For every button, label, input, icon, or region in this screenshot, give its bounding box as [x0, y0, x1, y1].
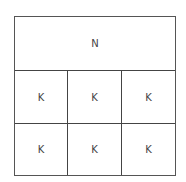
cell-r2-c1: K: [15, 124, 68, 175]
cell-r1-c1: K: [15, 71, 68, 124]
cell-r2-c2: K: [68, 124, 122, 175]
cell-r1-c2: K: [68, 71, 122, 124]
cell-r1-c3: K: [122, 71, 175, 124]
cell-r2-c3: K: [122, 124, 175, 175]
grid-diagram: N K K K K K K: [14, 16, 176, 176]
header-cell: N: [15, 17, 175, 71]
